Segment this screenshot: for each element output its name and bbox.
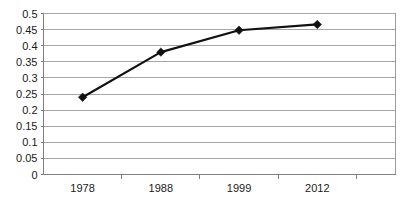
y-tick-label: 0.4 — [22, 40, 37, 52]
y-tick-label: 0 — [31, 169, 37, 181]
y-tick-label: 0.35 — [16, 56, 37, 68]
y-tick-label: 0.05 — [16, 152, 37, 164]
y-tick-label: 0.45 — [16, 24, 37, 36]
x-axis-tick-labels: 1978198819992012 — [70, 182, 329, 194]
y-tick-label: 0.5 — [22, 8, 37, 20]
chart-canvas: 0.50.450.40.350.30.250.20.150.10.050 197… — [0, 0, 409, 207]
y-tick-label: 0.25 — [16, 88, 37, 100]
y-tick-label: 0.1 — [22, 136, 37, 148]
y-axis-tick-labels: 0.50.450.40.350.30.250.20.150.10.050 — [16, 8, 37, 181]
x-tick-label: 1999 — [227, 182, 251, 194]
y-tick-label: 0.2 — [22, 104, 37, 116]
y-tick-label: 0.15 — [16, 120, 37, 132]
y-tick-label: 0.3 — [22, 72, 37, 84]
x-axis-tick-marks — [122, 175, 357, 179]
line-chart: 0.50.450.40.350.30.250.20.150.10.050 197… — [0, 0, 409, 207]
x-tick-label: 1978 — [70, 182, 94, 194]
x-tick-label: 2012 — [305, 182, 329, 194]
x-tick-label: 1988 — [149, 182, 173, 194]
